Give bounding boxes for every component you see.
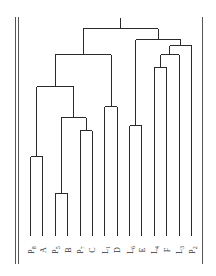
leaf-label-l4: L4 — [150, 246, 160, 254]
leaf-label-p5: P5 — [51, 246, 61, 253]
leaf-label-b: B — [64, 247, 73, 252]
leaf-label-c: C — [88, 247, 97, 252]
leaf-label-l1: L1 — [101, 246, 111, 254]
leaf-label-p7: P7 — [76, 246, 86, 253]
leaf-label-e: E — [138, 247, 147, 252]
leaf-label-d: D — [113, 247, 122, 253]
leaf-labels: P8AP5BP7CL1DL6EL4FL3P2 — [27, 246, 198, 254]
leaf-label-p2: P2 — [188, 246, 198, 253]
leaf-label-f: F — [163, 247, 172, 252]
leaf-label-l3: L3 — [175, 246, 185, 254]
leaf-label-p8: P8 — [27, 246, 37, 253]
leaf-label-l6: L6 — [126, 246, 136, 254]
leaf-label-a: A — [39, 247, 48, 253]
dendrogram: P8AP5BP7CL1DL6EL4FL3P2 — [0, 0, 216, 276]
dendrogram-links — [31, 18, 192, 236]
